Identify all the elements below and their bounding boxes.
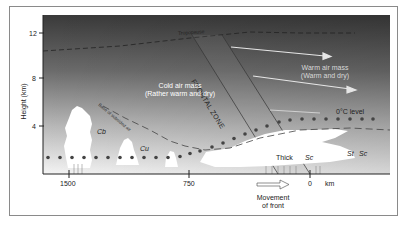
st-label: St	[347, 150, 354, 157]
x-tick-750: 750	[183, 180, 195, 187]
cu-cloud-label: Cu	[140, 145, 149, 152]
movement-of-front-line2: of front	[245, 202, 301, 209]
x-tick-0: 0	[308, 180, 312, 187]
zero-c-level-label: 0°C level	[336, 108, 364, 115]
sc-right-label: Sc	[359, 150, 367, 157]
cold-air-mass-title: Cold air mass	[130, 82, 230, 89]
movement-of-front-line1: Movement	[245, 194, 301, 201]
movement-arrow-icon	[257, 180, 289, 189]
cb-cloud-label: Cb	[97, 128, 106, 135]
warm-air-mass-subtitle: (Warm and dry)	[285, 72, 365, 79]
thick-label: Thick	[276, 154, 293, 161]
y-axis-label: Height (km)	[20, 79, 27, 125]
cold-air-mass-subtitle: (Rather warm and dry)	[130, 90, 230, 97]
sc-center-label: Sc	[305, 154, 313, 161]
y-tick-12: 12	[29, 30, 37, 37]
y-tick-4: 4	[32, 123, 36, 130]
x-tick-1500: 1500	[60, 180, 76, 187]
y-tick-8: 8	[32, 75, 36, 82]
x-axis-unit: km	[325, 180, 334, 187]
warm-air-mass-title: Warm air mass	[285, 64, 365, 71]
